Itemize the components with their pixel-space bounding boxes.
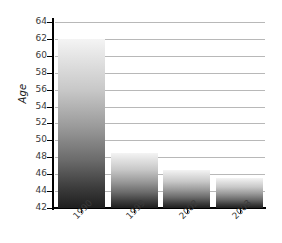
y-tick-mark	[47, 174, 53, 175]
y-tick-label: 46	[3, 168, 47, 178]
bar	[111, 153, 158, 208]
y-axis-tick: 46	[0, 174, 47, 175]
y-tick-mark	[47, 191, 53, 192]
y-tick-label: 52	[3, 117, 47, 127]
y-axis-tick: 58	[0, 73, 47, 74]
y-tick-mark	[47, 22, 53, 23]
y-axis-tick: 48	[0, 157, 47, 158]
y-axis-tick: 62	[0, 39, 47, 40]
y-axis-tick: 42	[0, 208, 47, 209]
y-tick-label: 42	[3, 202, 47, 212]
y-axis-tick: 54	[0, 107, 47, 108]
y-axis-tick: 56	[0, 90, 47, 91]
y-tick-label: 64	[3, 16, 47, 26]
y-tick-mark	[47, 107, 53, 108]
y-axis-tick: 64	[0, 22, 47, 23]
bar	[58, 39, 105, 208]
y-tick-mark	[47, 157, 53, 158]
y-tick-label: 48	[3, 151, 47, 161]
bar-chart: Age 424446485052545658606264 19901999200…	[0, 0, 282, 243]
gridline	[55, 22, 265, 23]
y-axis-tick: 50	[0, 140, 47, 141]
y-tick-label: 50	[3, 134, 47, 144]
y-tick-mark	[47, 208, 53, 209]
y-tick-label: 58	[3, 67, 47, 77]
y-axis-tick: 44	[0, 191, 47, 192]
y-axis-tick: 52	[0, 123, 47, 124]
y-tick-mark	[47, 56, 53, 57]
y-tick-label: 44	[3, 185, 47, 195]
y-tick-label: 62	[3, 33, 47, 43]
y-tick-mark	[47, 123, 53, 124]
y-tick-label: 60	[3, 50, 47, 60]
y-tick-label: 56	[3, 84, 47, 94]
y-axis-tick: 60	[0, 56, 47, 57]
y-tick-mark	[47, 39, 53, 40]
y-tick-mark	[47, 90, 53, 91]
y-tick-mark	[47, 73, 53, 74]
y-axis-line	[52, 18, 54, 210]
y-tick-mark	[47, 140, 53, 141]
y-tick-label: 54	[3, 101, 47, 111]
